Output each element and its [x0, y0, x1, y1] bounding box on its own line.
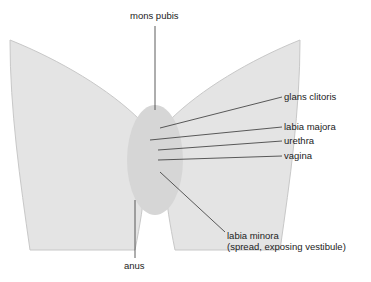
- label-labia-minora-line1: labia minora: [227, 230, 279, 241]
- figure-center-region: [127, 105, 183, 215]
- label-anus: anus: [124, 260, 145, 271]
- anatomy-figure: [0, 0, 371, 282]
- figure-outline-left: [10, 40, 145, 250]
- label-mons-pubis: mons pubis: [130, 10, 179, 21]
- label-vagina: vagina: [284, 150, 312, 161]
- label-labia-minora-line2: (spread, exposing vestibule): [227, 241, 346, 252]
- label-glans-clitoris: glans clitoris: [284, 91, 336, 102]
- label-labia-majora: labia majora: [284, 121, 336, 132]
- label-urethra: urethra: [284, 135, 314, 146]
